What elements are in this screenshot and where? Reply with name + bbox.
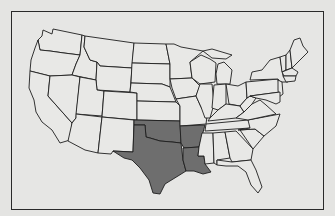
state-michigan — [216, 62, 232, 84]
state-colorado — [102, 91, 137, 120]
state-north-dakota — [132, 43, 170, 64]
state-new-mexico — [98, 117, 134, 154]
state-florida — [217, 160, 262, 193]
state-wisconsin — [190, 55, 216, 84]
us-map — [0, 0, 335, 216]
state-kansas — [137, 101, 180, 121]
state-maine — [290, 38, 308, 68]
